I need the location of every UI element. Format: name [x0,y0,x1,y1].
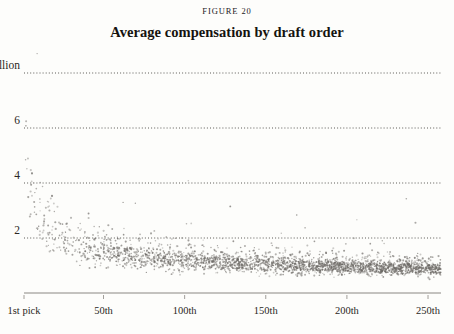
plot-svg-canvas [0,0,454,334]
x-axis-tick-label: 150th [254,305,278,316]
scatter-plot-area: $ 8 million642 1st pick50th100th150th200… [0,0,454,334]
y-axis-tick-label: 6 [0,114,20,126]
x-axis-tick-label: 100th [173,305,197,316]
scatter-points [25,53,442,280]
x-axis-tick-label: 250th [416,305,440,316]
x-axis-tick-label: 1st pick [8,305,41,316]
x-axis-tick-label: 200th [335,305,359,316]
y-axis-tick-label: $ 8 million [0,59,20,71]
y-axis-tick-label: 2 [0,224,20,236]
x-axis-tick-label: 50th [94,305,113,316]
y-axis-tick-label: 4 [0,169,20,181]
figure-container: FIGURE 20 Average compensation by draft … [0,0,454,334]
